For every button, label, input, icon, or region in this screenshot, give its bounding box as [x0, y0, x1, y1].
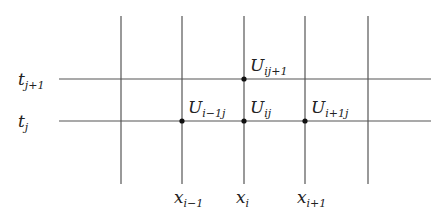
grid-node-dot	[241, 76, 246, 81]
grid-node-dot	[241, 118, 246, 123]
node-value-label: Uij+1	[250, 55, 287, 78]
time-level-label: tj+1	[18, 69, 44, 92]
node-value-label: Uij	[250, 97, 272, 120]
space-node-label: xi+1	[297, 187, 326, 210]
grid-node-dot	[179, 118, 184, 123]
space-node-label: xi−1	[174, 187, 203, 210]
time-level-label: tj	[18, 111, 29, 134]
node-value-label: Ui−1j	[188, 97, 226, 120]
space-node-label: xi	[236, 187, 249, 210]
finite-difference-grid: tj+1tjxi−1xixi+1Uij+1Ui−1jUijUi+1j	[0, 0, 447, 217]
node-value-label: Ui+1j	[311, 97, 349, 120]
grid-node-dot	[302, 118, 307, 123]
